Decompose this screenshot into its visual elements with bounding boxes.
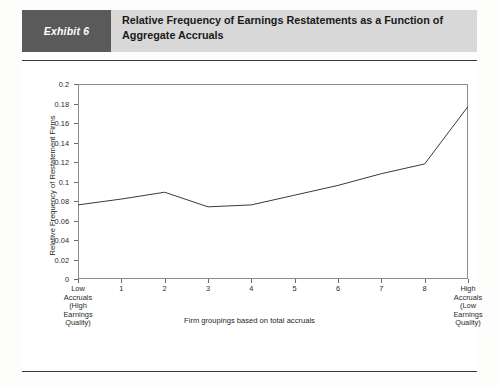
exhibit-title: Relative Frequency of Earnings Restateme… — [122, 13, 470, 42]
y-axis-tick-label: 0 — [33, 275, 69, 284]
x-axis-tick-mark — [381, 279, 382, 283]
y-axis-tick-label: 0.04 — [33, 236, 69, 245]
figure-panel: Relative Frequency of Restatement Firms … — [22, 60, 477, 372]
x-axis-title: Firm groupings based on total accruals — [22, 316, 477, 325]
x-axis-tick-mark — [295, 279, 296, 283]
y-axis-tick-label: 0.02 — [33, 255, 69, 264]
series-polyline — [78, 106, 468, 206]
x-axis-tick-mark — [338, 279, 339, 283]
x-axis-tick-mark — [468, 279, 469, 283]
x-axis-tick-mark — [251, 279, 252, 283]
x-axis-tick-mark — [165, 279, 166, 283]
x-axis-tick-mark — [208, 279, 209, 283]
exhibit-figure-page: Exhibit 6 Relative Frequency of Earnings… — [0, 0, 499, 388]
plot-wrapper: Relative Frequency of Restatement Firms … — [22, 61, 477, 373]
y-axis-tick-label: 0.1 — [33, 177, 69, 186]
y-axis-tick-label: 0.12 — [33, 158, 69, 167]
exhibit-number-tag: Exhibit 6 — [22, 10, 111, 52]
y-axis-tick-label: 0.08 — [33, 197, 69, 206]
x-axis-tick-mark — [78, 279, 79, 283]
exhibit-number-label: Exhibit 6 — [44, 25, 90, 37]
y-axis-tick-label: 0.14 — [33, 138, 69, 147]
y-axis-tick-label: 0.2 — [33, 80, 69, 89]
y-axis-tick-label: 0.18 — [33, 99, 69, 108]
x-axis-tick-mark — [425, 279, 426, 283]
y-axis-tick-label: 0.16 — [33, 119, 69, 128]
data-series-line — [78, 84, 468, 279]
x-axis-tick-mark — [121, 279, 122, 283]
y-axis-tick-label: 0.06 — [33, 216, 69, 225]
